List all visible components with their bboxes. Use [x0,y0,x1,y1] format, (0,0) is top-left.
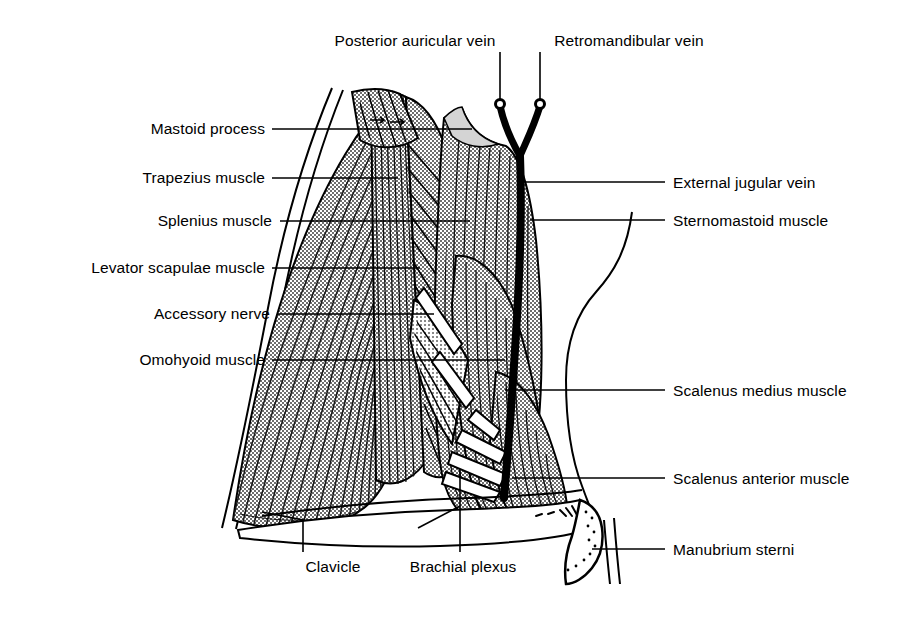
label-manubrium-sterni: Manubrium sterni [673,541,794,559]
anatomy-figure: Posterior auricular vein Retromandibular… [0,0,922,619]
neck-outline-right [566,212,632,534]
label-clavicle: Clavicle [263,558,403,576]
label-splenius-muscle: Splenius muscle [15,212,272,230]
label-levator-scapulae-muscle: Levator scapulae muscle [10,259,265,277]
label-omohyoid-muscle: Omohyoid muscle [15,351,265,369]
label-retromandibular-vein: Retromandibular vein [519,32,739,50]
label-mastoid-process: Mastoid process [15,120,265,138]
label-accessory-nerve: Accessory nerve [15,305,270,323]
label-brachial-plexus: Brachial plexus [391,558,535,576]
label-scalenus-anterior-muscle: Scalenus anterior muscle [673,470,849,488]
label-posterior-auricular-vein: Posterior auricular vein [295,32,535,50]
leader-lines-top [500,52,540,99]
label-external-jugular-vein: External jugular vein [673,174,816,192]
label-scalenus-medius-muscle: Scalenus medius muscle [673,382,847,400]
label-trapezius-muscle: Trapezius muscle [15,169,265,187]
retromandibular-vein-path [520,106,540,156]
label-sternomastoid-muscle: Sternomastoid muscle [673,212,828,230]
neck-outline-lower-right [604,518,620,584]
